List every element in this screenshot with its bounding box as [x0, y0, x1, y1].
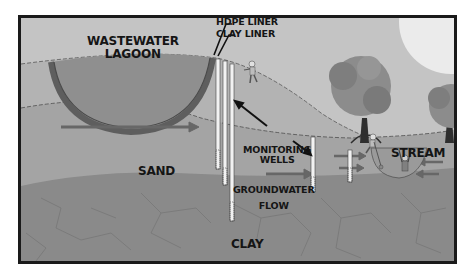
stream-label: STREAM — [391, 147, 445, 160]
clay-label: CLAY — [231, 238, 263, 251]
monitoring-well — [216, 59, 220, 169]
clay-liner-label: CLAY LINER — [216, 29, 275, 39]
label-line: WASTEWATER — [87, 35, 179, 48]
label-line: FLOW — [233, 201, 315, 211]
label-line: LAGOON — [87, 48, 179, 61]
cross-section-scene — [21, 18, 454, 261]
sand-label: SAND — [138, 165, 175, 178]
wastewater-lagoon-label: WASTEWATER LAGOON — [87, 35, 179, 60]
groundwater-flow-label: GROUNDWATER FLOW — [233, 185, 315, 211]
label-line: GROUNDWATER — [233, 185, 315, 195]
monitoring-well — [348, 150, 352, 182]
diagram-frame: WASTEWATER LAGOON HDPE LINER CLAY LINER … — [18, 15, 457, 264]
monitoring-well — [223, 61, 227, 185]
label-line: WELLS — [243, 155, 311, 165]
hdpe-liner-label: HDPE LINER — [216, 17, 278, 27]
monitoring-wells-label: MONITORING WELLS — [243, 145, 311, 165]
